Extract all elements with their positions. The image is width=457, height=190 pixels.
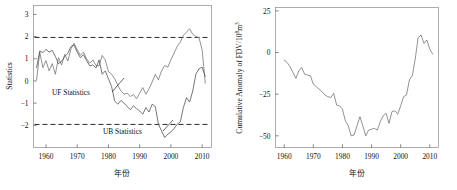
x-tick-label: 2000 xyxy=(164,152,179,161)
cumulative-anomaly-chart: 196019701980199020002010−50−25025 Cumula… xyxy=(228,0,457,190)
x-tick-label: 2010 xyxy=(422,152,437,161)
x-tick-label: 1970 xyxy=(70,152,85,161)
panel-cumulative-anomaly: 196019701980199020002010−50−25025 Cumula… xyxy=(228,0,457,190)
axis-tick-labels: 196019701980199020002010−50−25025 xyxy=(259,7,438,161)
mann-kendall-chart: 196019701980199020002010−2−10123 UF Stat… xyxy=(0,0,228,190)
x-tick-label: 2010 xyxy=(195,152,210,161)
x-tick-label: 1990 xyxy=(132,152,147,161)
axis-tick-labels: 196019701980199020002010−2−10123 xyxy=(21,10,210,160)
y-axis-title: Statistics xyxy=(5,62,14,89)
ub-leader-line xyxy=(163,120,173,131)
x-axis-title: 年份 xyxy=(114,168,130,178)
y-tick-label: 0 xyxy=(25,77,29,86)
y-axis-title-exponent-3: 3 xyxy=(234,22,240,25)
significance-threshold-lines xyxy=(35,37,211,124)
y-axis-title: Cumulative Anomaly of FDV/108m3 xyxy=(234,22,244,134)
x-tick-label: 2000 xyxy=(393,152,408,161)
y-tick-label: −1 xyxy=(21,99,29,108)
y-tick-label: 3 xyxy=(25,10,29,19)
y-tick-label: 2 xyxy=(25,32,29,41)
series-lines xyxy=(37,29,206,138)
x-tick-label: 1980 xyxy=(101,152,116,161)
x-tick-label: 1980 xyxy=(335,152,350,161)
series-lines xyxy=(284,35,432,136)
y-tick-label: 1 xyxy=(25,54,29,63)
y-tick-label: 25 xyxy=(263,7,271,16)
y-tick-label: 0 xyxy=(267,48,271,57)
x-tick-label: 1970 xyxy=(306,152,321,161)
axis-ticks xyxy=(276,11,430,148)
y-tick-label: −2 xyxy=(21,121,29,130)
x-tick-label: 1960 xyxy=(277,152,292,161)
y-tick-label: −50 xyxy=(259,132,271,141)
ub-statistics-label: UB Statistics xyxy=(103,127,142,136)
x-tick-label: 1960 xyxy=(39,152,54,161)
series-line-cumulative-anomaly-of-fdv xyxy=(284,35,432,136)
uf-leader-line xyxy=(112,78,124,92)
figure-container: 196019701980199020002010−2−10123 UF Stat… xyxy=(0,0,457,190)
panel-mann-kendall: 196019701980199020002010−2−10123 UF Stat… xyxy=(0,0,228,190)
x-axis-title: 年份 xyxy=(349,168,365,178)
y-tick-label: −25 xyxy=(259,90,271,99)
uf-statistics-label: UF Statistics xyxy=(52,88,90,97)
y-axis-title-main: Cumulative Anomaly of FDV/10 xyxy=(235,33,244,133)
x-tick-label: 1990 xyxy=(364,152,379,161)
